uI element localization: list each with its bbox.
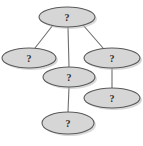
edge-top-to-right: [83, 25, 103, 48]
edge-top-to-left: [35, 25, 53, 48]
node-top[interactable]: ?: [39, 7, 97, 29]
node-middle-label: ?: [67, 72, 72, 83]
node-right[interactable]: ?: [84, 48, 142, 70]
edge-middle-to-bottom: [68, 87, 69, 112]
node-left[interactable]: ?: [2, 48, 58, 70]
node-lower-right[interactable]: ?: [84, 88, 142, 110]
diagram-canvas: ? ? ? ? ?: [0, 0, 143, 146]
node-top-label: ?: [65, 12, 70, 23]
node-link-graph: ? ? ? ? ?: [0, 0, 143, 146]
node-lower-right-label: ?: [110, 93, 115, 104]
node-bottom-label: ?: [66, 118, 71, 129]
node-layer: ? ? ? ? ?: [2, 7, 142, 136]
node-left-label: ?: [27, 53, 32, 64]
edge-top-to-middle: [68, 27, 69, 67]
node-right-label: ?: [110, 53, 115, 64]
node-bottom[interactable]: ?: [42, 112, 96, 136]
node-middle[interactable]: ?: [43, 67, 97, 89]
